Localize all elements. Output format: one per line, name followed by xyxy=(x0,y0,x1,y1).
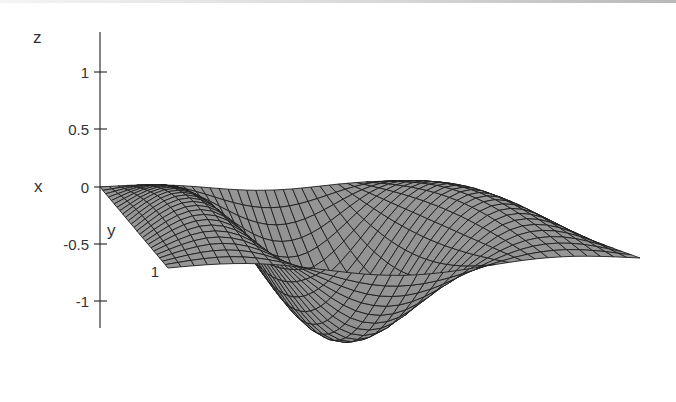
surface-plot xyxy=(0,0,676,402)
z-tick-1: 1 xyxy=(49,65,89,80)
z-axis-label: z xyxy=(33,29,42,46)
x-axis-label: x xyxy=(34,178,43,195)
z-tick-neg0.5: -0.5 xyxy=(49,237,89,252)
z-tick-0.5: 0.5 xyxy=(49,122,89,137)
z-tick-0: 0 xyxy=(49,180,89,195)
y-tick-1: 1 xyxy=(34,264,159,279)
surface-mesh xyxy=(100,181,640,343)
z-tick-neg1: -1 xyxy=(49,294,89,309)
y-axis-label: y xyxy=(107,222,116,239)
